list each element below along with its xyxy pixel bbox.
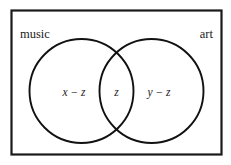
venn-diagram: music art x − z z y − z	[0, 0, 231, 165]
set-label-art: art	[200, 27, 214, 41]
region-label-art-only: y − z	[146, 86, 171, 99]
venn-diagram-canvas: music art x − z z y − z	[0, 0, 231, 165]
set-label-music: music	[20, 27, 50, 41]
region-label-music-only: x − z	[61, 86, 86, 98]
region-label-intersection: z	[113, 86, 119, 98]
